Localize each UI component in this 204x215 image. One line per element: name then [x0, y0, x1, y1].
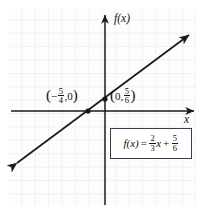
x-intercept-close-paren: )	[73, 88, 78, 103]
equation-lhs: f(x)	[123, 138, 138, 149]
equation-plus: +	[161, 138, 171, 149]
y-intercept-label: (0,56)	[110, 87, 136, 106]
y-intercept-denominator: 6	[124, 95, 130, 105]
x-intercept-open-paren: (	[46, 88, 51, 103]
y-intercept-open-paren: (	[110, 88, 115, 103]
graph-plot-area	[0, 0, 204, 215]
y-intercept-close-paren: )	[131, 88, 136, 103]
equation-slope-denominator: 3	[149, 143, 155, 153]
equation-slope-fraction: 23	[149, 134, 155, 153]
x-axis-label: x	[184, 114, 189, 126]
y-intercept-numerator: 5	[124, 87, 130, 96]
y-axis-label: f(x)	[114, 13, 130, 25]
equation-slope-numerator: 2	[149, 134, 155, 143]
x-intercept-denominator: 4	[58, 95, 64, 105]
equation-intercept-numerator: 5	[172, 134, 178, 143]
equation-text: f(x)=23x+56	[123, 134, 178, 153]
equation-box: f(x)=23x+56	[110, 128, 192, 159]
equation-intercept-denominator: 6	[172, 143, 178, 153]
graph-figure: f(x) x (−54,0) (0,56) f(x)=23x+56	[0, 0, 204, 215]
x-intercept-fraction: 54	[58, 87, 64, 106]
point-x-intercept	[85, 108, 90, 113]
x-intercept-label: (−54,0)	[46, 87, 78, 106]
y-intercept-fraction: 56	[124, 87, 130, 106]
x-intercept-numerator: 5	[58, 87, 64, 96]
equation-intercept-fraction: 56	[172, 134, 178, 153]
equation-equals: =	[139, 138, 149, 149]
point-y-intercept	[102, 96, 107, 101]
x-intercept-sign: −	[51, 91, 57, 102]
